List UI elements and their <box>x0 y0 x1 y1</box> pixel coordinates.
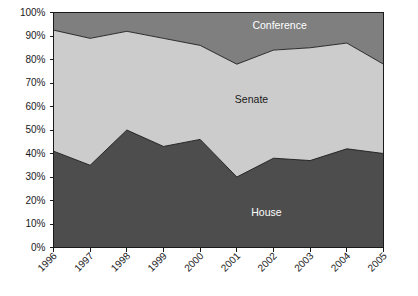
y-axis-label: 0% <box>31 242 46 253</box>
y-axis-label: 50% <box>25 124 45 135</box>
y-axis-label: 70% <box>25 77 45 88</box>
y-axis-label: 80% <box>25 54 45 65</box>
y-axis-label: 30% <box>25 171 45 182</box>
y-axis-label: 60% <box>25 101 45 112</box>
y-axis-label: 20% <box>25 195 45 206</box>
chart-canvas: 100%90%80%70%60%50%40%30%20%10%0% 199619… <box>0 0 418 296</box>
stacked-area-chart: 100%90%80%70%60%50%40%30%20%10%0% 199619… <box>0 0 418 296</box>
y-axis-label: 10% <box>25 218 45 229</box>
y-axis-label: 100% <box>20 7 46 18</box>
series-label-house: House <box>251 206 282 218</box>
series-label-senate: Senate <box>235 93 268 105</box>
y-axis-label: 40% <box>25 148 45 159</box>
y-axis-label: 90% <box>25 30 45 41</box>
area-series-group <box>54 13 384 248</box>
series-label-conference: Conference <box>252 19 306 31</box>
